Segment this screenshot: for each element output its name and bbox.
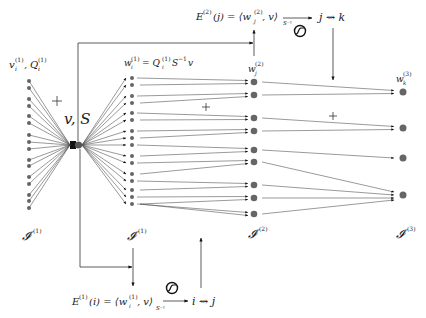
svg-text:−1: −1 — [178, 55, 187, 62]
svg-text:j: j — [253, 18, 256, 25]
layer1-to-layer2-edges — [137, 78, 248, 216]
layer2-node — [251, 159, 258, 166]
layer1-node — [130, 202, 134, 206]
layer1-node — [130, 101, 134, 105]
layer3-label: w (3) k — [396, 70, 412, 86]
layer1-node — [130, 111, 134, 115]
bottom-sigmoid-icon — [167, 283, 178, 294]
svg-text:(1): (1) — [79, 293, 88, 300]
input-layer-label: v (1) i , Q (1) i — [9, 56, 47, 72]
layer3-node — [400, 192, 407, 199]
layer2-node — [251, 182, 258, 189]
layer1-node — [130, 179, 134, 183]
svg-text:i: i — [129, 303, 131, 309]
svg-text:, v⟩: , v⟩ — [262, 11, 278, 22]
top-sigmoid-icon — [295, 26, 306, 37]
svg-text:(3): (3) — [403, 70, 412, 77]
layer2-label: w (2) j — [248, 60, 264, 77]
layer2-node — [251, 147, 258, 154]
layer1-node — [130, 195, 134, 199]
layer1-node — [130, 143, 134, 147]
layer1-node — [130, 118, 134, 122]
layer3-node — [400, 155, 407, 162]
layer1-node — [130, 154, 134, 158]
layer3-node — [400, 89, 407, 96]
svg-text:(j) = ⟨w: (j) = ⟨w — [213, 11, 252, 22]
svg-text:(i) = ⟨w: (i) = ⟨w — [89, 296, 128, 307]
svg-text:(1): (1) — [162, 55, 171, 62]
svg-text:= Q: = Q — [142, 58, 160, 68]
svg-text:(3): (3) — [407, 225, 416, 232]
svg-text:i: i — [15, 65, 17, 72]
layer1-node — [130, 161, 134, 165]
center-node-core — [75, 141, 82, 148]
plus-operator-1 — [52, 96, 62, 106]
svg-text:(1): (1) — [131, 55, 140, 62]
svg-text:i: i — [131, 64, 133, 70]
center-node-label: v, S — [64, 110, 91, 128]
svg-text:(2): (2) — [259, 225, 268, 232]
layer2-set-label: 𝓘 (2) — [248, 225, 268, 241]
input-layer — [27, 79, 31, 210]
layer2-node — [251, 79, 258, 86]
layer1-node — [130, 129, 134, 133]
svg-text:Q: Q — [30, 59, 38, 70]
svg-text:j: j — [254, 70, 257, 77]
layer1-set-label: 𝓘 (1) — [127, 227, 147, 243]
svg-text:v: v — [188, 58, 193, 68]
svg-text:S⁻¹: S⁻¹ — [156, 305, 165, 311]
layer1-nodes — [130, 76, 134, 206]
svg-text:(1): (1) — [33, 227, 42, 234]
bottom-flow-arrow — [80, 149, 132, 267]
plus-operator-2 — [202, 103, 210, 111]
layer1-node — [130, 94, 134, 98]
svg-text:(1): (1) — [15, 56, 24, 63]
svg-text:,: , — [24, 59, 27, 70]
layer1-node — [130, 76, 134, 80]
center-to-layer1-edges — [82, 78, 126, 204]
layer2-node — [251, 92, 258, 99]
layer2-node — [251, 195, 258, 202]
svg-text:i: i — [38, 65, 40, 72]
layer2-nodes — [251, 79, 258, 218]
svg-text:(2): (2) — [203, 8, 212, 15]
svg-text:i: i — [162, 64, 164, 70]
input-set-label: 𝓘 (1) — [22, 227, 42, 243]
layer1-node — [130, 83, 134, 87]
layer1-node — [130, 136, 134, 140]
layer1-node — [130, 188, 134, 192]
layer3-nodes — [400, 89, 407, 199]
svg-text:k: k — [403, 80, 407, 86]
layer3-set-label: 𝓘 (3) — [396, 225, 416, 241]
bottom-selection-label: i ⇝ j — [192, 295, 216, 308]
layer2-node — [251, 128, 258, 135]
bottom-entropy-formula: E (1) (i) = ⟨w (1) i , v⟩ S⁻¹ — [71, 293, 165, 311]
svg-text:(1): (1) — [38, 56, 47, 63]
svg-text:, v⟩: , v⟩ — [137, 296, 153, 307]
center-node — [70, 141, 82, 149]
layer3-node — [400, 125, 407, 132]
layer2-node — [251, 211, 258, 218]
network-diagram: v (1) i , Q (1) i v, S w (1) i = Q (1) i… — [0, 0, 426, 318]
top-entropy-formula: E (2) (j) = ⟨w (2) j , v⟩ S⁻¹ — [195, 8, 292, 26]
svg-text:(1): (1) — [138, 227, 147, 234]
svg-text:(2): (2) — [255, 60, 264, 67]
plus-operator-3 — [329, 112, 337, 120]
top-selection-label: j ⇝ k — [316, 11, 346, 24]
svg-text:S⁻¹: S⁻¹ — [283, 20, 292, 26]
input-to-center-edges — [29, 81, 70, 208]
layer2-node — [251, 115, 258, 122]
layer2-to-layer3-edges — [262, 82, 394, 214]
layer1-node — [130, 172, 134, 176]
layer1-label: w (1) i = Q (1) i S −1 v — [124, 55, 193, 70]
